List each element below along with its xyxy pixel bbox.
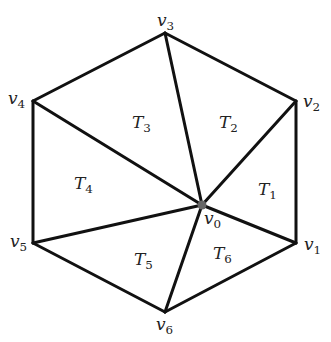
triangle-label-T5: T5 <box>134 249 153 272</box>
diagram-svg: v0v1v2v3v4v5v6T1T2T3T4T5T6 <box>0 0 331 342</box>
vertex-label-v3: v3 <box>157 10 174 33</box>
triangle-label-T2: T2 <box>219 112 238 135</box>
vertex-label-v5: v5 <box>10 231 27 254</box>
edges <box>33 33 296 312</box>
edge-v3-v4 <box>33 33 165 101</box>
spoke-v0-v5 <box>33 205 202 243</box>
triangle-label-T3: T3 <box>132 112 151 135</box>
spoke-v0-v4 <box>33 101 202 205</box>
spoke-v0-v2 <box>202 101 296 205</box>
vertex-label-v1: v1 <box>304 234 321 257</box>
labels: v0v1v2v3v4v5v6T1T2T3T4T5T6 <box>8 10 321 337</box>
hexagon-triangulation-diagram: v0v1v2v3v4v5v6T1T2T3T4T5T6 <box>0 0 331 342</box>
vertex-label-v4: v4 <box>8 88 25 111</box>
vertex-label-v6: v6 <box>156 314 173 337</box>
vertex-label-v2: v2 <box>303 91 320 114</box>
edge-v2-v3 <box>165 33 296 101</box>
triangle-label-T4: T4 <box>74 173 93 196</box>
triangle-label-T6: T6 <box>213 243 232 266</box>
triangle-label-T1: T1 <box>258 179 277 202</box>
spoke-v0-v3 <box>165 33 202 205</box>
